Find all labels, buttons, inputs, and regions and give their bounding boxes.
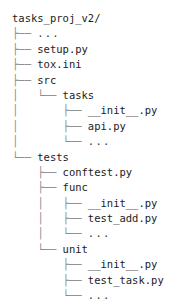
- tree-ellipsis-label: ...: [88, 135, 111, 147]
- tree-branch-icon: │ ├──: [12, 120, 88, 132]
- tree-branch-icon: │ ├──: [12, 212, 88, 224]
- tree-row: │ └── ...: [12, 226, 191, 241]
- tree-row: └── unit: [12, 242, 191, 257]
- tree-node-label: __init__.py: [88, 258, 158, 270]
- tree-branch-icon: │ └──: [12, 89, 63, 101]
- tree-node-label: __init__.py: [88, 197, 158, 209]
- tree-branch-icon: └──: [12, 289, 88, 300]
- tree-branch-icon: ├──: [12, 258, 88, 270]
- tree-ellipsis-label: ...: [37, 27, 60, 39]
- tree-row: ├── setup.py: [12, 42, 191, 57]
- tree-branch-icon: ├──: [12, 58, 37, 70]
- tree-branch-icon: │ ├──: [12, 104, 88, 116]
- tree-row: │ └── ...: [12, 134, 191, 149]
- tree-ellipsis-label: ...: [88, 289, 111, 300]
- tree-row: │ ├── __init__.py: [12, 196, 191, 211]
- tree-root-row: tasks_proj_v2/: [12, 11, 191, 26]
- tree-branch-icon: ├──: [12, 166, 63, 178]
- tree-row: │ ├── api.py: [12, 119, 191, 134]
- tree-node-label: conftest.py: [63, 166, 133, 178]
- tree-branch-icon: └──: [12, 243, 63, 255]
- tree-node-label: setup.py: [37, 43, 88, 55]
- tree-node-label: tasks: [63, 89, 95, 101]
- tree-row: ├── conftest.py: [12, 165, 191, 180]
- tree-row: ├── src: [12, 73, 191, 88]
- tree-row: ├── __init__.py: [12, 257, 191, 272]
- tree-branch-icon: ├──: [12, 74, 37, 86]
- tree-row: ├── ...: [12, 26, 191, 41]
- tree-node-label: __init__.py: [88, 104, 158, 116]
- tree-node-label: api.py: [88, 120, 126, 132]
- directory-tree: tasks_proj_v2/├── ...├── setup.py├── tox…: [0, 0, 191, 300]
- tree-row: │ ├── test_add.py: [12, 211, 191, 226]
- tree-row: │ ├── __init__.py: [12, 103, 191, 118]
- tree-branch-icon: └──: [12, 151, 37, 163]
- tree-node-label: test_task.py: [88, 274, 164, 286]
- tree-ellipsis-label: ...: [88, 227, 111, 239]
- tree-branch-icon: │ ├──: [12, 197, 88, 209]
- tree-branch-icon: │ └──: [12, 135, 88, 147]
- tree-row: ├── func: [12, 180, 191, 195]
- tree-branch-icon: │ └──: [12, 227, 88, 239]
- tree-branch-icon: ├──: [12, 43, 37, 55]
- tree-row: │ └── tasks: [12, 88, 191, 103]
- tree-root-label: tasks_proj_v2/: [12, 12, 101, 24]
- tree-row: ├── test_task.py: [12, 273, 191, 288]
- tree-branch-icon: ├──: [12, 181, 63, 193]
- tree-node-label: src: [37, 74, 56, 86]
- tree-node-label: test_add.py: [88, 212, 158, 224]
- tree-row: └── ...: [12, 288, 191, 300]
- tree-node-label: unit: [63, 243, 88, 255]
- tree-node-label: func: [63, 181, 88, 193]
- tree-row: ├── tox.ini: [12, 57, 191, 72]
- tree-row: └── tests: [12, 150, 191, 165]
- tree-node-label: tox.ini: [37, 58, 81, 70]
- tree-node-label: tests: [37, 151, 69, 163]
- tree-branch-icon: ├──: [12, 274, 88, 286]
- tree-branch-icon: ├──: [12, 27, 37, 39]
